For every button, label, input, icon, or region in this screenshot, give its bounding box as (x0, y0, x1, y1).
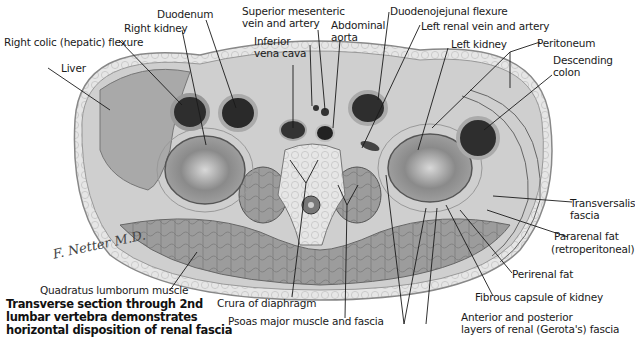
label-descending-colon-1: Descending (553, 54, 613, 66)
figure-caption: Transverse section through 2nd lumbar ve… (6, 298, 232, 337)
caption-line-3: horizontal disposition of renal fascia (6, 324, 232, 337)
duodenum-shape (220, 96, 256, 130)
label-psoas: Psoas major muscle and fascia (228, 315, 384, 327)
label-liver: Liver (61, 62, 86, 74)
label-renal-fascia-2: layers of renal (Gerota's) fascia (461, 323, 619, 335)
aorta-shape (316, 125, 334, 141)
label-pararenal-fat-1: Pararenal fat (554, 230, 619, 242)
label-superior-mesenteric-2: vein and artery (242, 17, 320, 29)
label-ivc-1: Inferior (254, 35, 290, 47)
label-perirenal-fat: Perirenal fat (512, 268, 573, 280)
label-ivc-2: vena cava (254, 47, 306, 59)
label-aorta-2: aorta (331, 31, 358, 43)
label-aorta-1: Abdominal (331, 19, 385, 31)
label-transversalis-fascia-1: Transversalis (570, 197, 635, 209)
label-left-renal-vessels: Left renal vein and artery (421, 20, 549, 32)
label-right-kidney: Right kidney (124, 22, 188, 34)
label-fibrous-capsule: Fibrous capsule of kidney (475, 291, 603, 303)
label-duodenum: Duodenum (157, 8, 213, 20)
label-renal-fascia-1: Anterior and posterior (461, 311, 573, 323)
label-descending-colon-2: colon (553, 66, 580, 78)
label-transversalis-fascia-2: fascia (570, 209, 600, 221)
label-left-kidney: Left kidney (451, 38, 507, 50)
label-superior-mesenteric-1: Superior mesenteric (242, 5, 345, 17)
label-right-colic-flexure: Right colic (hepatic) flexure (4, 36, 143, 48)
label-duodenojejunal-flexure: Duodenojejunal flexure (390, 5, 508, 17)
label-peritoneum: Peritoneum (537, 37, 595, 49)
label-pararenal-fat-2: (retroperitoneal) (551, 243, 634, 255)
label-quadratus-lumborum: Quadratus lumborum muscle (40, 284, 188, 296)
right-kidney-shape (165, 136, 245, 204)
